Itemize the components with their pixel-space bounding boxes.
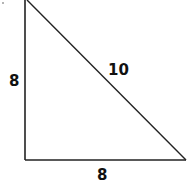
bottom-leg-label: 8 — [97, 166, 107, 180]
triangle-diagram: 8 10 8 — [0, 0, 187, 180]
hypotenuse-label: 10 — [108, 61, 129, 79]
stray-dot — [2, 2, 4, 4]
left-leg-label: 8 — [9, 72, 19, 90]
hypotenuse — [27, 0, 186, 160]
